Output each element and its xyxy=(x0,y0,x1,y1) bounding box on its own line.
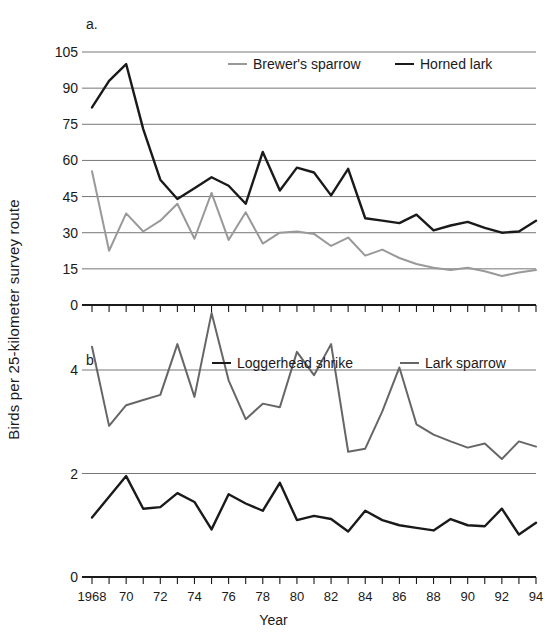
y-tick-label: 2 xyxy=(14,467,78,481)
y-tick-label: 30 xyxy=(14,226,78,240)
y-tick-label: 75 xyxy=(14,117,78,131)
y-tick-label: 45 xyxy=(14,190,78,204)
y-tick-label: 90 xyxy=(14,81,78,95)
legend-label: Brewer's sparrow xyxy=(253,56,361,72)
figure-container: Birds per 25-kilometer survey route Year… xyxy=(0,0,547,639)
legend-label: Lark sparrow xyxy=(425,355,506,371)
legend-item[interactable]: Horned lark xyxy=(395,56,492,72)
y-tick-label: 15 xyxy=(14,262,78,276)
legend-item[interactable]: Brewer's sparrow xyxy=(228,56,361,72)
legend-line-icon xyxy=(400,362,419,364)
y-tick-label: 4 xyxy=(14,363,78,377)
y-tick-label: 0 xyxy=(14,298,78,312)
legend-line-icon xyxy=(212,362,231,364)
panel-b-plot xyxy=(0,0,547,639)
legend-line-icon xyxy=(395,63,414,65)
y-tick-label: 105 xyxy=(14,45,78,59)
x-tick-label: 94 xyxy=(511,590,547,603)
legend-label: Loggerhead shrike xyxy=(237,355,353,371)
legend-label: Horned lark xyxy=(420,56,492,72)
y-tick-label: 0 xyxy=(14,570,78,584)
legend-line-icon xyxy=(228,63,247,65)
y-tick-label: 60 xyxy=(14,153,78,167)
legend-item[interactable]: Lark sparrow xyxy=(400,355,506,371)
legend-item[interactable]: Loggerhead shrike xyxy=(212,355,353,371)
